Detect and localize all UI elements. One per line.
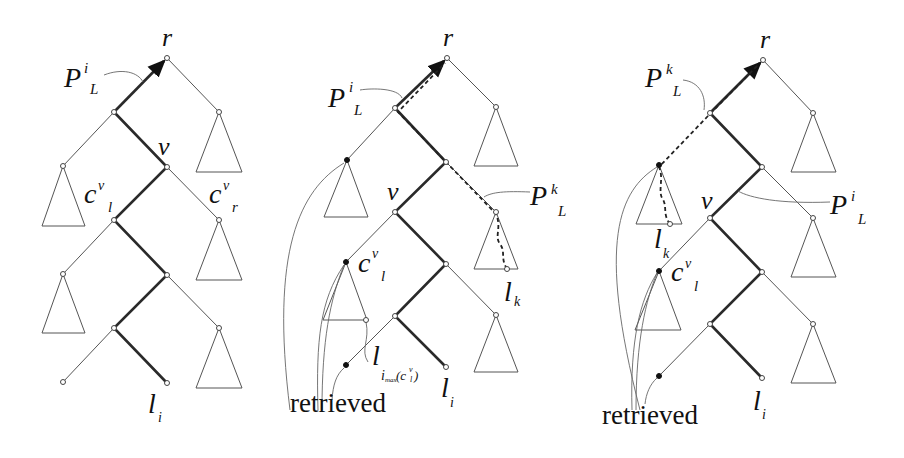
retrieved-node — [657, 163, 662, 168]
retrieved-connector — [284, 163, 344, 410]
svg-text:L: L — [672, 83, 681, 99]
svg-text:P: P — [644, 62, 662, 93]
svg-text:l: l — [410, 375, 413, 384]
tree-3: r P k L P i L v c v l l k l i retrieved — [602, 25, 866, 430]
svg-text:l: l — [654, 223, 662, 254]
svg-text:r: r — [232, 199, 238, 215]
leaf-label: l — [148, 388, 156, 419]
cr-node — [217, 218, 222, 223]
subtree-triangle — [196, 328, 242, 388]
subtree-triangle — [196, 112, 242, 172]
cl-node — [657, 269, 662, 274]
svg-text:L: L — [557, 203, 566, 219]
svg-text:l: l — [441, 372, 449, 403]
path-pi — [710, 113, 762, 378]
svg-text:i: i — [851, 188, 855, 204]
svg-text:L: L — [89, 81, 98, 97]
v-node — [165, 165, 170, 170]
label-connector — [365, 322, 368, 362]
path-label: P — [63, 62, 81, 93]
label-connector — [683, 80, 704, 110]
cl-node — [344, 260, 349, 265]
svg-text:v: v — [387, 177, 399, 206]
root-label: r — [162, 23, 173, 52]
v-node — [708, 216, 713, 221]
svg-text:l: l — [372, 340, 380, 371]
subtree-triangle — [636, 165, 682, 224]
subtree-triangle — [474, 315, 518, 372]
root-node — [761, 58, 766, 63]
retrieved-connector — [632, 273, 657, 410]
leaf-li-node — [444, 365, 449, 370]
svg-text:v: v — [98, 178, 105, 193]
subtree-triangle — [791, 113, 836, 172]
svg-text:v: v — [223, 178, 230, 193]
subtree-triangle — [196, 220, 242, 280]
label-connector — [360, 89, 402, 98]
svg-text:k: k — [551, 181, 558, 197]
subtree-triangle — [42, 274, 85, 333]
svg-text:l: l — [504, 276, 512, 307]
tree-2: r P i L P k L v c v l l k l i max (c v l… — [284, 23, 567, 418]
root-node — [445, 56, 450, 61]
subtree-triangle — [791, 218, 836, 277]
path-pi — [395, 108, 446, 367]
svg-text:v: v — [701, 186, 713, 215]
label-connector — [104, 71, 143, 82]
svg-text:c: c — [671, 256, 684, 287]
svg-text:i: i — [450, 395, 454, 410]
svg-text:l: l — [694, 278, 698, 294]
svg-text:P: P — [327, 82, 345, 113]
subtree-triangle — [474, 107, 518, 166]
svg-text:i: i — [762, 407, 766, 422]
label-connector — [738, 191, 830, 202]
svg-text:k: k — [514, 294, 521, 309]
svg-text:v: v — [409, 365, 413, 374]
svg-text:i: i — [158, 410, 162, 425]
cr-label: c — [209, 178, 222, 209]
v-label: v — [158, 132, 170, 161]
cl-label: c — [84, 178, 97, 209]
v-node — [393, 210, 398, 215]
svg-text:L: L — [353, 102, 362, 118]
subtree-triangle — [474, 212, 518, 269]
svg-text:l: l — [753, 385, 761, 416]
cl-node — [112, 218, 117, 223]
retrieved-node — [657, 374, 662, 379]
subtree-triangle — [42, 166, 85, 226]
tree-path-diagram: r P i L v c v l c v r l i — [0, 0, 904, 458]
svg-text:k: k — [663, 246, 670, 261]
leaf-li-node — [165, 381, 170, 386]
retrieved-node — [345, 158, 350, 163]
svg-text:(c: (c — [396, 368, 406, 383]
svg-text:i: i — [349, 79, 353, 95]
svg-text:k: k — [666, 61, 673, 77]
root-node — [165, 56, 170, 61]
tree-1: r P i L v c v l c v r l i — [42, 23, 242, 425]
retrieved-label: retrieved — [602, 400, 698, 430]
svg-text:v: v — [685, 256, 692, 271]
leaf-lk-node — [668, 222, 673, 227]
retrieved-node — [344, 363, 349, 368]
subtree-triangle — [324, 160, 368, 217]
svg-text:i: i — [84, 60, 88, 76]
svg-text:P: P — [829, 189, 847, 220]
retrieved-label: retrieved — [290, 388, 386, 418]
svg-text:v: v — [372, 246, 379, 261]
leaf-limax-node — [364, 318, 369, 323]
svg-text:r: r — [443, 23, 454, 52]
svg-text:L: L — [857, 211, 866, 227]
svg-text:l: l — [108, 199, 112, 215]
leaf-li-node — [760, 376, 765, 381]
svg-text:): ) — [413, 368, 418, 383]
svg-text:l: l — [381, 268, 385, 284]
svg-text:c: c — [358, 247, 371, 278]
svg-text:r: r — [760, 25, 771, 54]
svg-text:P: P — [529, 180, 547, 211]
leaf-lk-node — [505, 267, 510, 272]
subtree-triangle — [791, 324, 836, 383]
label-connector — [484, 192, 530, 197]
